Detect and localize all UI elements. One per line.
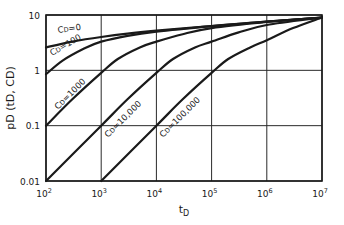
x-axis-ticks: 102103104105106107	[36, 187, 328, 199]
x-tick-label: 107	[312, 187, 328, 199]
x-tick-label: 104	[147, 187, 163, 199]
x-tick-label: 103	[91, 187, 107, 199]
y-tick-label: 0.1	[26, 121, 40, 131]
curve-label: CD=1000	[52, 76, 87, 111]
curve-cd-100	[46, 18, 322, 75]
y-axis-label: pD (tD, CD)	[4, 66, 17, 129]
y-tick-label: 1	[34, 66, 40, 76]
x-axis-label: tD	[179, 203, 190, 218]
y-tick-label: 0.01	[20, 177, 40, 187]
type-curve-chart: 102103104105106107 0.010.1110 CD=0CD=100…	[0, 0, 344, 225]
curve-labels: CD=0CD=100CD=1000CD=10,000CD=100,000	[48, 22, 202, 140]
curves	[46, 18, 322, 182]
y-axis-ticks: 0.010.1110	[20, 11, 40, 187]
x-tick-label: 106	[257, 187, 273, 199]
x-tick-label: 102	[36, 187, 52, 199]
y-tick-label: 10	[29, 11, 41, 21]
x-tick-label: 105	[202, 187, 218, 199]
